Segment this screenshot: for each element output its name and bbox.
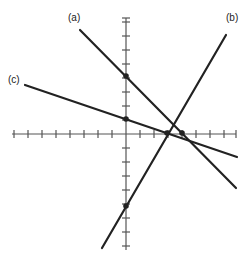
line-a: [80, 30, 236, 188]
point-b-y-intercept: [123, 203, 129, 209]
label-line-c: (c): [8, 74, 20, 85]
point-c-x-intercept: [164, 130, 170, 136]
label-line-b: (b): [226, 12, 238, 23]
line-c: [25, 85, 237, 157]
coordinate-plot: [0, 0, 249, 261]
point-a-y-intercept: [123, 73, 129, 79]
point-a-x-intercept: [179, 130, 185, 136]
line-b: [102, 35, 226, 248]
point-c-y-intercept: [123, 116, 129, 122]
label-line-a: (a): [68, 12, 80, 23]
x-axis: [12, 130, 236, 138]
